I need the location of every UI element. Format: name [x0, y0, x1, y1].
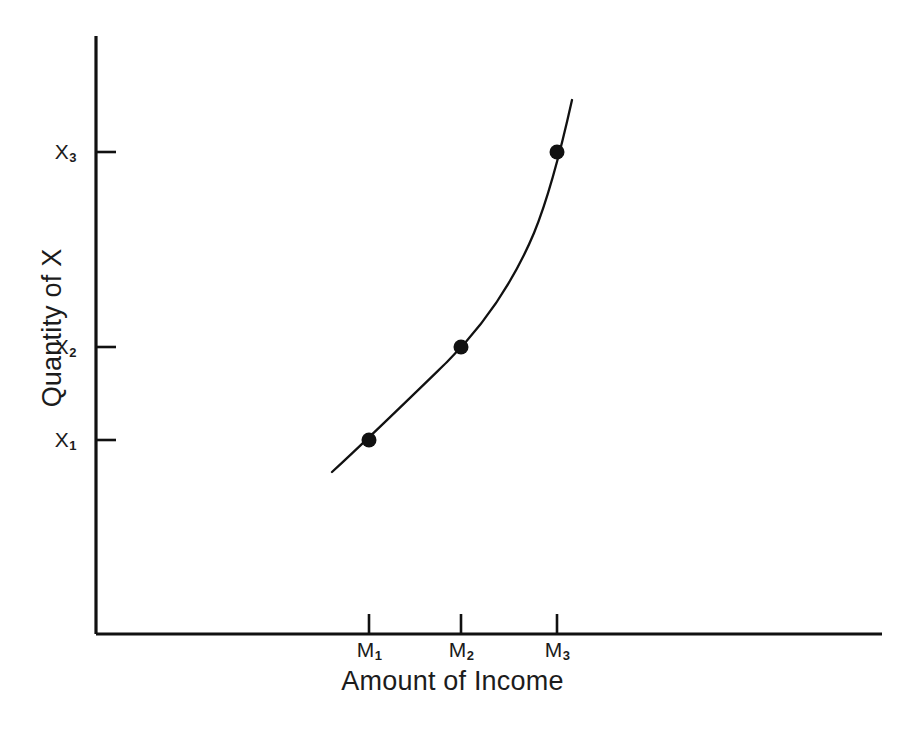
engel-curve-plot [0, 0, 905, 730]
y-tick-label-x3: X3 [36, 140, 76, 164]
y-tick-sub-x2: 2 [69, 345, 76, 360]
y-tick-sub-x3: 3 [69, 150, 76, 165]
data-point-markers [362, 145, 565, 448]
x-tick-label-m3: M3 [534, 638, 580, 662]
x-tick-label-m2: M2 [438, 638, 484, 662]
y-axis-title: Quantity of X [37, 249, 68, 408]
data-point-3 [550, 145, 565, 160]
x-tick-sub-m3: 3 [563, 648, 570, 663]
engel-curve-line [332, 100, 572, 472]
data-point-2 [454, 340, 469, 355]
x-tick-label-m1: M1 [346, 638, 392, 662]
chart-figure: X3 X2 X1 M1 M2 M3 Amount of Income Quant… [0, 0, 905, 730]
x-tick-sub-m1: 1 [375, 648, 382, 663]
data-point-1 [362, 433, 377, 448]
y-tick-sub-x1: 1 [69, 438, 76, 453]
x-axis-title: Amount of Income [0, 666, 905, 697]
x-tick-sub-m2: 2 [467, 648, 474, 663]
y-tick-label-x1: X1 [36, 428, 76, 452]
